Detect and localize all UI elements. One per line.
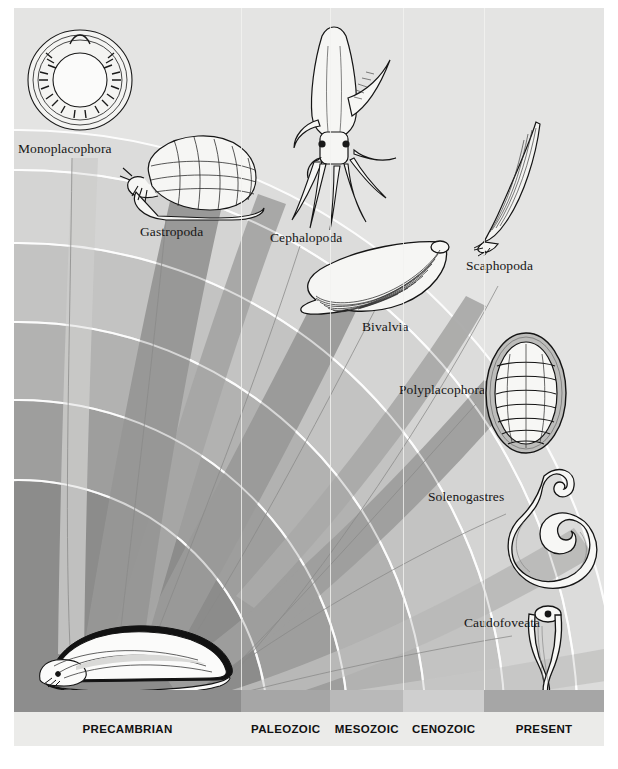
era-label-present: PRESENT: [484, 712, 604, 746]
figure-root: Monoplacophora: [0, 0, 618, 769]
label-solenogastres: Solenogastres: [428, 490, 504, 504]
timeline-labels: PRECAMBRIAN PALEOZOIC MESOZOIC CENOZOIC …: [14, 712, 604, 746]
strip-cenozoic: [403, 690, 484, 712]
era-label-paleozoic: PALEOZOIC: [241, 712, 330, 746]
art-gastropoda: [114, 126, 274, 234]
strip-mesozoic: [330, 690, 403, 712]
label-bivalvia: Bivalvia: [362, 320, 409, 334]
era-label-cenozoic: CENOZOIC: [403, 712, 484, 746]
phylogeny-plate: Monoplacophora: [14, 8, 604, 746]
art-cephalopoda: [270, 20, 400, 235]
era-divider-cenozoic: [403, 8, 404, 690]
strip-present: [484, 690, 604, 712]
era-divider-present: [484, 8, 485, 690]
era-label-mesozoic: MESOZOIC: [330, 712, 403, 746]
art-solenogastres: [500, 460, 604, 590]
art-polyplacophora: [476, 328, 576, 458]
label-scaphopoda: Scaphopoda: [466, 259, 533, 273]
art-ancestral-mollusk: [30, 620, 244, 698]
label-polyplacophora: Polyplacophora: [399, 383, 485, 397]
label-monoplacophora: Monoplacophora: [18, 142, 112, 156]
label-gastropoda: Gastropoda: [140, 225, 203, 239]
era-label-precambrian: PRECAMBRIAN: [14, 712, 241, 746]
strip-paleozoic: [241, 690, 330, 712]
label-caudofoveata: Caudofoveata: [464, 616, 540, 630]
art-bivalvia: [290, 234, 460, 326]
art-scaphopoda: [466, 118, 556, 258]
strip-precambrian: [14, 690, 241, 712]
geologic-timeline: PRECAMBRIAN PALEOZOIC MESOZOIC CENOZOIC …: [14, 690, 604, 746]
era-divider-paleozoic: [241, 8, 242, 690]
era-divider-mesozoic: [330, 8, 331, 690]
art-monoplacophora: [20, 20, 140, 140]
timeline-color-strip: [14, 690, 604, 712]
